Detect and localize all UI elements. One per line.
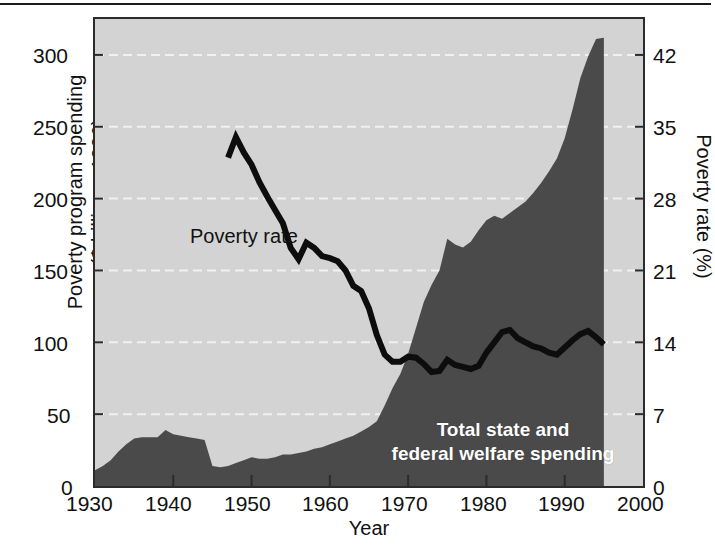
y-tick-left-250: 250 [33,116,68,140]
x-tick-1980: 1980 [460,492,507,516]
y-tick-right-35: 35 [653,116,676,140]
header-rule [0,3,711,5]
y-tick-left-150: 150 [33,260,68,284]
x-axis-title: Year [93,517,645,540]
welfare-spending-annotation: Total state and federal welfare spending [383,418,623,466]
x-tick-1930: 1930 [66,492,113,516]
x-tick-2000: 2000 [617,492,664,516]
poverty-rate-annotation: Poverty rate [190,225,298,248]
y-tick-right-42: 42 [653,44,676,68]
welfare-spending-annotation-line1: Total state and [383,418,623,442]
y-tick-right-21: 21 [653,260,676,284]
x-tick-1940: 1940 [145,492,192,516]
y-axis-right-title: Poverty rate (%) [692,107,715,307]
y-tick-left-200: 200 [33,188,68,212]
y-tick-right-7: 7 [653,404,665,428]
x-tick-1950: 1950 [224,492,271,516]
y-tick-left-300: 300 [33,44,68,68]
x-tick-1970: 1970 [381,492,428,516]
y-tick-right-28: 28 [653,188,676,212]
welfare-spending-annotation-line2: federal welfare spending [383,442,623,466]
x-tick-1990: 1990 [538,492,585,516]
chart-canvas [95,19,643,486]
y-tick-right-14: 14 [653,332,676,356]
x-tick-1960: 1960 [302,492,349,516]
y-tick-left-100: 100 [33,332,68,356]
y-tick-left-50: 50 [47,404,70,428]
